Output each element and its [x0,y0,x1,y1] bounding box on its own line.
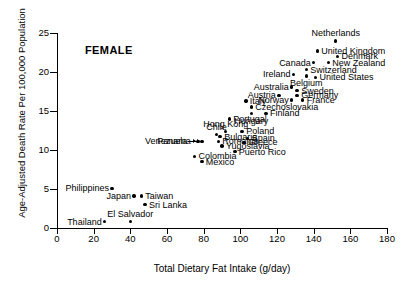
data-point-label: Chile [206,122,227,131]
data-point-label: Mexico [206,157,235,166]
data-point-label: Puerto Rico [239,147,286,156]
data-point [110,187,113,190]
x-tick-label: 100 [225,233,255,244]
data-point [143,203,146,206]
x-tick-label: 120 [262,233,292,244]
data-point [334,39,337,42]
data-point [244,99,247,102]
data-point-label: Ireland [263,70,291,79]
data-point [233,150,236,153]
y-axis-title: Age-Adjusted Death Rate Per 100,000 Popu… [17,8,27,218]
x-axis-title: Total Dietary Fat Intake (g/day) [57,263,387,274]
x-tick-label: 160 [335,233,365,244]
y-tick [50,72,57,73]
data-point [290,85,293,88]
y-tick-label: 20 [31,67,49,77]
data-point [132,194,135,197]
data-point [292,73,295,76]
y-tick-label: 0 [31,223,49,233]
y-tick-label: 10 [31,145,49,155]
data-point [220,144,223,147]
data-point-label: Finland [270,109,300,118]
scatter-plot-figure: Age-Adjusted Death Rate Per 100,000 Popu… [0,0,410,286]
x-tick-label: 140 [299,233,329,244]
data-point [103,220,106,223]
data-point [305,68,308,71]
data-point-label: Canada [279,58,311,67]
data-point-label: Philippines [65,184,109,193]
data-point [217,140,220,143]
x-tick-label: 180 [372,233,402,244]
data-point [200,140,203,143]
x-tick-label: 60 [152,233,182,244]
x-tick-label: 20 [79,233,109,244]
y-axis-line [57,33,58,229]
data-point [193,155,196,158]
data-point [295,89,298,92]
data-point-label: Japan [106,192,131,201]
data-point-label: Sri Lanka [149,200,187,209]
y-tick-label: 25 [31,28,49,38]
x-tick-label: 40 [115,233,145,244]
y-tick [50,150,57,151]
data-point [295,94,298,97]
y-tick [50,33,57,34]
data-point-label: United States [320,73,374,82]
data-point-label: Netherlands [311,29,360,38]
x-axis-line [57,228,387,229]
data-point-label: Thailand [67,217,102,226]
y-tick-label: 15 [31,106,49,116]
series-annotation-female: FEMALE [85,44,133,56]
data-point-label: Panama [157,137,191,146]
y-tick [50,111,57,112]
data-point [140,194,143,197]
x-tick-label: 80 [189,233,219,244]
data-point [129,220,132,223]
data-point-label: El Salvador [107,210,153,219]
label-leader-arrow [192,141,199,142]
x-tick-label: 0 [42,233,72,244]
y-tick [50,189,57,190]
y-tick [50,228,57,229]
data-point [250,105,253,108]
data-point [316,49,319,52]
data-point [200,160,203,163]
y-tick-label: 5 [31,184,49,194]
